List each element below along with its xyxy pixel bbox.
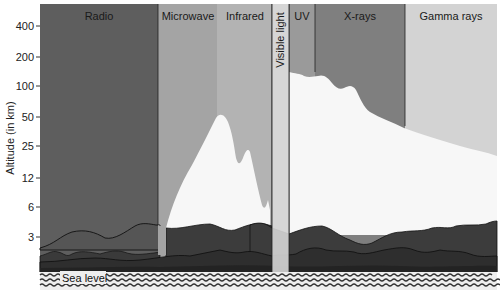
y-tick-label: 100	[16, 80, 34, 92]
atmospheric-window-chart: Sea level Radio Microwave Infrared Visib…	[0, 0, 500, 294]
y-tick-label: 50	[22, 111, 34, 123]
y-tick: 25	[22, 140, 40, 152]
sea-level-band: Sea level	[40, 271, 500, 290]
sea-level-label: Sea level	[62, 272, 107, 284]
y-tick-label: 6	[28, 201, 34, 213]
radio-window-gap	[158, 225, 166, 255]
y-tick: 400	[16, 20, 40, 32]
band-label-xrays: X-rays	[344, 10, 376, 22]
y-tick: 3	[28, 231, 40, 243]
y-tick: 12	[22, 172, 40, 184]
y-tick: 200	[16, 51, 40, 63]
band-label-radio: Radio	[85, 10, 114, 22]
y-tick-label: 200	[16, 51, 34, 63]
y-tick: 50	[22, 111, 40, 123]
band-label-infrared: Infrared	[226, 10, 264, 22]
y-tick-label: 25	[22, 140, 34, 152]
y-tick-label: 12	[22, 172, 34, 184]
band-label-gamma: Gamma rays	[420, 10, 483, 22]
band-label-microwave: Microwave	[162, 10, 215, 22]
band-label-visible: Visible light	[274, 12, 286, 67]
y-tick-label: 400	[16, 20, 34, 32]
band-label-uv: UV	[294, 10, 310, 22]
y-axis: 400 200 100 50 25 12 6 3 Altit	[4, 20, 40, 243]
y-axis-title: Altitude (in km)	[4, 101, 16, 174]
y-tick-label: 3	[28, 231, 34, 243]
y-tick: 6	[28, 201, 40, 213]
y-tick: 100	[16, 80, 40, 92]
